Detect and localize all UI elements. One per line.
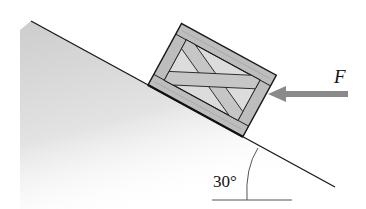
force-arrow bbox=[268, 86, 348, 102]
diagram-graphic bbox=[0, 0, 366, 209]
force-label: F bbox=[334, 66, 346, 88]
incline-crate-diagram: F 30° bbox=[0, 0, 366, 209]
angle-label: 30° bbox=[213, 172, 237, 192]
